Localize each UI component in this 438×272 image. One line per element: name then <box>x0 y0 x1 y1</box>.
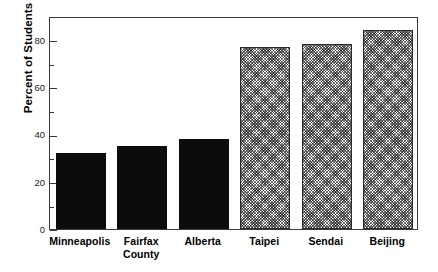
y-axis-tick-label: 0 <box>5 224 45 235</box>
x-axis-label-line: Alberta <box>184 235 221 247</box>
x-axis-label-line: Sendai <box>308 235 343 247</box>
bar-beijing <box>363 30 413 229</box>
y-axis-tick-label: 80 <box>5 35 45 46</box>
plot-frame <box>49 17 418 230</box>
y-axis-tick-label: 40 <box>5 129 45 140</box>
bar-taipei <box>240 47 290 229</box>
y-axis-tick-minor <box>50 159 54 160</box>
bar-minneapolis <box>56 153 106 229</box>
y-axis-tick-minor <box>50 65 54 66</box>
bar-sendai <box>302 44 352 229</box>
y-axis-tick-label: 20 <box>5 177 45 188</box>
x-axis-label-line: County <box>96 248 186 261</box>
y-axis-tick-minor <box>50 207 54 208</box>
y-axis-title: Percent of Students <box>22 0 34 138</box>
x-axis-label-line: Taipei <box>249 235 279 247</box>
y-axis-tick-minor <box>50 112 54 113</box>
x-axis-label-line: Beijing <box>370 235 405 247</box>
bar-alberta <box>179 139 229 229</box>
x-axis-label-beijing: Beijing <box>342 235 432 248</box>
y-axis-tick-major <box>50 136 57 137</box>
plot-area <box>50 18 417 229</box>
bar-chart: Percent of Students 020406080Minneapolis… <box>0 0 438 272</box>
bar-fairfax-county <box>117 146 167 229</box>
y-axis-tick-label: 60 <box>5 82 45 93</box>
x-axis-label-line: Fairfax <box>124 235 159 247</box>
y-axis-tick-major <box>50 88 57 89</box>
y-axis-tick-major <box>50 41 57 42</box>
y-axis-tick-major <box>50 230 57 231</box>
